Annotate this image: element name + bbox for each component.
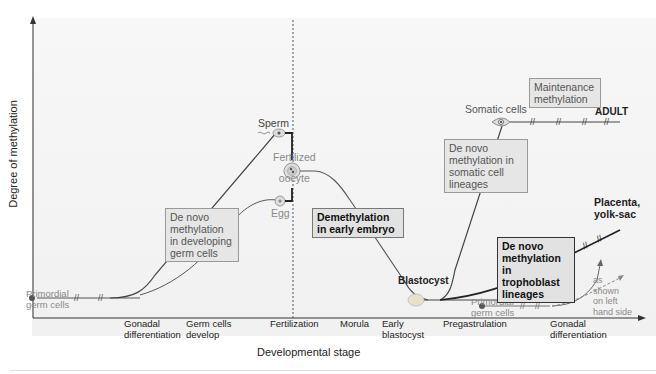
x-tick-morula: Morula [340,318,369,329]
as-shown-note: asshownon lefthand side [593,275,632,317]
x-tick-gonadal-differentiation-2: Gonadaldifferentiation [550,318,607,340]
maintenance-methylation-box: Maintenancemethylation [529,78,601,108]
placenta-yolk-sac-label: Placenta,yolk-sac [594,196,640,220]
de-novo-germ-cells-box: De novomethylationin developinggerm cell… [165,208,239,262]
somatic-cells-label: Somatic cells [465,104,527,115]
svg-text://: // [530,117,536,127]
demethylation-box: Demethylationin early embryo [312,208,404,238]
svg-text://: // [582,117,588,127]
egg-label: Egg [271,208,290,219]
bottom-divider [10,370,656,371]
x-tick-germ-cells-develop: Germ cellsdevelop [186,318,231,340]
x-axis-arrow-icon [638,315,646,321]
svg-text://: // [74,293,80,303]
svg-text://: // [604,117,610,127]
x-tick-pregastrulation: Pregastrulation [443,318,507,329]
sperm-label: Sperm [258,118,289,129]
de-novo-trophoblast-box: De novomethylation introphoblastlineages [497,237,575,303]
blastocyst-icon [408,294,424,306]
de-novo-somatic-box: De novomethylation insomatic celllineage… [444,139,528,193]
x-tick-early-blastocyst: Earlyblastocyst [382,318,424,340]
blastocyst-label: Blastocyst [398,275,449,286]
fertilized-oocyte-label: Fertilizedoocyte [273,152,316,184]
x-tick-gonadal-differentiation: Gonadaldifferentiation [124,318,181,340]
svg-text://: // [556,117,562,127]
primordial-germ-cells-left-label: Primordialgerm cells [26,288,69,310]
y-axis-arrow-icon [30,16,36,24]
x-tick-fertilization: Fertilization [270,318,319,329]
x-axis-title: Developmental stage [257,346,360,358]
svg-text://: // [98,293,104,303]
y-axis-title: Degree of methylation [7,94,19,214]
